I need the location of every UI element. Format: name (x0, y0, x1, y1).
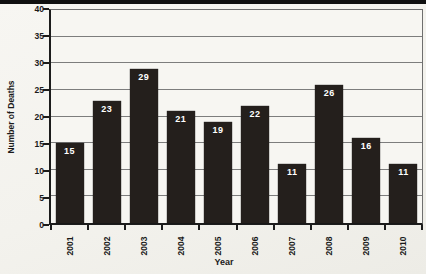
y-axis-tick (43, 89, 49, 91)
x-axis-tick (87, 225, 89, 230)
x-axis-tick (273, 225, 275, 230)
bar: 29 (130, 69, 158, 223)
x-axis-tick (310, 225, 312, 230)
x-tick-label: 2008 (316, 231, 342, 261)
bar-value-label: 26 (315, 88, 343, 98)
bar: 11 (389, 164, 417, 223)
x-axis-tick (161, 225, 163, 230)
y-axis-tick (43, 170, 49, 172)
bar: 16 (352, 138, 380, 223)
y-axis-title: Number of Deaths (4, 57, 18, 177)
y-tick-label: 5 (20, 193, 44, 203)
bar-value-label: 29 (130, 72, 158, 82)
y-tick-label: 10 (20, 166, 44, 176)
bar-value-label: 19 (204, 125, 232, 135)
y-tick-label: 0 (20, 220, 44, 230)
gridline (51, 89, 422, 90)
y-axis-tick (43, 224, 49, 226)
y-axis-tick (43, 197, 49, 199)
bar: 22 (241, 106, 269, 223)
x-axis-title: Year (184, 257, 264, 267)
bar: 19 (204, 122, 232, 223)
gridline (51, 36, 422, 37)
x-tick-label: 2002 (94, 231, 120, 261)
y-axis-tick (43, 116, 49, 118)
scanned-bar-chart-page: Number of Deaths 15232921192211261611 05… (0, 0, 426, 274)
y-tick-label: 40 (20, 4, 44, 14)
bar-value-label: 11 (389, 167, 417, 177)
plot-area: 15232921192211261611 (49, 9, 423, 225)
bar: 23 (93, 101, 121, 223)
bar: 21 (167, 111, 195, 223)
bar: 26 (315, 85, 343, 223)
y-axis-tick (43, 35, 49, 37)
x-tick-label: 2003 (131, 231, 157, 261)
x-axis-tick (198, 225, 200, 230)
bar-value-label: 11 (278, 167, 306, 177)
x-tick-label: 2009 (353, 231, 379, 261)
y-axis-tick (43, 62, 49, 64)
x-tick-label: 2010 (390, 231, 416, 261)
bar-value-label: 21 (167, 114, 195, 124)
bar: 15 (56, 143, 84, 223)
x-axis-tick (384, 225, 386, 230)
bar: 11 (278, 164, 306, 223)
x-axis-tick (124, 225, 126, 230)
bar-value-label: 15 (56, 146, 84, 156)
x-tick-label: 2001 (57, 231, 83, 261)
x-axis-tick (236, 225, 238, 230)
x-axis-tick (421, 225, 423, 230)
y-tick-label: 35 (20, 31, 44, 41)
y-tick-label: 20 (20, 112, 44, 122)
bar-value-label: 22 (241, 109, 269, 119)
y-tick-label: 30 (20, 58, 44, 68)
y-tick-label: 15 (20, 139, 44, 149)
bar-value-label: 23 (93, 104, 121, 114)
x-axis-tick (50, 225, 52, 230)
x-axis-tick (347, 225, 349, 230)
y-axis-tick (43, 8, 49, 10)
bar-value-label: 16 (352, 141, 380, 151)
y-axis-tick (43, 143, 49, 145)
top-rule-divider (0, 0, 426, 4)
x-tick-label: 2007 (279, 231, 305, 261)
y-tick-label: 25 (20, 85, 44, 95)
gridline (51, 62, 422, 63)
